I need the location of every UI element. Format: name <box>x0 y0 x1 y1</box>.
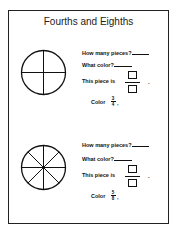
this-piece-label: This piece is <box>82 78 115 84</box>
circle-eighths-icon <box>20 144 67 191</box>
what-color-answer-blank-2[interactable] <box>114 155 132 161</box>
how-many-pieces-question: How many pieces? <box>82 49 149 56</box>
color-instruction-label-2: Color <box>91 193 105 199</box>
what-color-label: What color? <box>82 62 114 68</box>
period-2: . <box>148 173 150 179</box>
color-fraction-three-fourths: 3 4 <box>110 96 116 107</box>
what-color-answer-blank[interactable] <box>114 61 132 67</box>
fraction-bar <box>125 82 140 83</box>
comma: , <box>117 100 119 106</box>
how-many-answer-blank[interactable] <box>132 49 149 55</box>
color-denominator-2: 8 <box>110 196 116 201</box>
what-color-question: What color? <box>82 61 132 68</box>
numerator-answer-box[interactable] <box>128 71 137 79</box>
comma-2: , <box>117 194 119 200</box>
how-many-label-2: How many pieces? <box>82 142 132 148</box>
color-fraction-five-eighths: 5 8 <box>110 190 116 201</box>
circle-fourths-icon <box>20 49 67 96</box>
how-many-answer-blank-2[interactable] <box>132 141 149 147</box>
worksheet-border <box>8 10 169 224</box>
numerator-answer-box-2[interactable] <box>128 165 137 173</box>
how-many-label: How many pieces? <box>82 50 132 56</box>
denominator-answer-box[interactable] <box>128 85 137 93</box>
color-denominator: 4 <box>110 102 116 107</box>
fraction-bar-2 <box>125 176 140 177</box>
how-many-pieces-question-2: How many pieces? <box>82 141 149 148</box>
color-instruction-label: Color <box>91 99 105 105</box>
denominator-answer-box-2[interactable] <box>128 179 137 187</box>
what-color-label-2: What color? <box>82 156 114 162</box>
period: . <box>148 79 150 85</box>
worksheet-title: Fourths and Eighths <box>0 16 177 27</box>
this-piece-label-2: This piece is <box>82 172 115 178</box>
what-color-question-2: What color? <box>82 155 132 162</box>
